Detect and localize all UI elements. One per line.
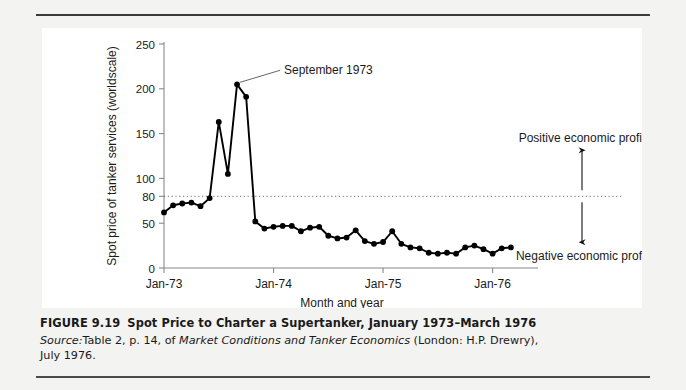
data-point xyxy=(408,244,414,250)
data-point xyxy=(298,228,304,234)
data-point xyxy=(325,233,331,239)
data-point xyxy=(417,245,423,251)
data-point xyxy=(316,224,322,230)
data-point xyxy=(481,246,487,252)
data-point xyxy=(398,241,404,247)
y-axis-title: Spot price of tanker services (worldscal… xyxy=(105,46,119,265)
y-tick-label: 0 xyxy=(149,263,155,275)
price-series-line xyxy=(164,84,511,253)
x-tick-label: Jan-76 xyxy=(474,277,511,291)
page-rule-top xyxy=(36,14,650,16)
y-tick-label: 80 xyxy=(142,191,155,203)
data-point xyxy=(243,94,249,100)
source-text-post: (London: H.P. Drewry), xyxy=(410,334,538,347)
data-point xyxy=(453,251,459,257)
figure-caption: FIGURE 9.19Spot Price to Charter a Super… xyxy=(40,316,656,363)
spot-price-line-chart: 05080100150200250Jan-73Jan-74Jan-75Jan-7… xyxy=(42,28,642,308)
data-point xyxy=(471,243,477,249)
caption-figure-number: FIGURE 9.19 xyxy=(40,316,120,330)
source-text-pre: Table 2, p. 14, of xyxy=(82,334,179,347)
data-point xyxy=(188,200,194,206)
peak-callout-leader xyxy=(240,70,280,82)
data-point xyxy=(435,251,441,257)
figure-panel: 05080100150200250Jan-73Jan-74Jan-75Jan-7… xyxy=(42,28,642,308)
data-point xyxy=(161,210,167,216)
data-point xyxy=(207,195,213,201)
source-date: July 1976. xyxy=(40,349,96,362)
data-point xyxy=(462,244,468,250)
x-tick-label: Jan-75 xyxy=(365,277,402,291)
data-point xyxy=(271,224,277,230)
x-tick-label: Jan-73 xyxy=(146,277,183,291)
data-point xyxy=(170,202,176,208)
data-point xyxy=(179,201,185,207)
y-tick-label: 200 xyxy=(136,83,155,95)
data-point xyxy=(389,228,395,234)
data-point xyxy=(262,226,268,232)
data-point xyxy=(362,238,368,244)
positive-profit-label: Positive economic profit xyxy=(519,131,642,145)
data-point xyxy=(371,241,377,247)
source-title-italic: Market Conditions and Tanker Economics xyxy=(179,334,410,347)
data-point xyxy=(380,239,386,245)
textbook-page: 05080100150200250Jan-73Jan-74Jan-75Jan-7… xyxy=(0,0,686,390)
y-tick-label: 50 xyxy=(142,218,155,230)
caption-title-text: Spot Price to Charter a Supertanker, Jan… xyxy=(127,316,536,330)
caption-source-date-line: July 1976. xyxy=(40,348,656,363)
caption-title-line: FIGURE 9.19Spot Price to Charter a Super… xyxy=(40,316,656,331)
data-point xyxy=(216,119,222,125)
caption-source-line: Source:Table 2, p. 14, of Market Conditi… xyxy=(40,333,656,348)
data-point xyxy=(499,245,505,251)
negative-profit-label: Negative economic profit xyxy=(516,249,642,263)
data-point xyxy=(225,171,231,177)
y-tick-label: 100 xyxy=(136,173,155,185)
data-point xyxy=(444,250,450,256)
data-point xyxy=(335,236,341,242)
data-point xyxy=(344,235,350,241)
data-point xyxy=(508,244,514,250)
page-rule-bottom xyxy=(36,376,650,378)
data-point xyxy=(252,219,258,225)
peak-annotation-label: September 1973 xyxy=(284,63,373,77)
x-axis-title: Month and year xyxy=(300,296,383,308)
y-tick-label: 150 xyxy=(136,128,155,140)
data-point xyxy=(280,223,286,229)
data-point xyxy=(490,251,496,257)
data-point xyxy=(353,227,359,233)
data-point xyxy=(234,81,240,87)
source-label: Source: xyxy=(40,334,82,347)
data-point xyxy=(198,203,204,209)
data-point xyxy=(426,250,432,256)
x-tick-label: Jan-74 xyxy=(255,277,292,291)
data-point xyxy=(289,223,295,229)
data-point xyxy=(307,225,313,231)
y-tick-label: 250 xyxy=(136,39,155,51)
